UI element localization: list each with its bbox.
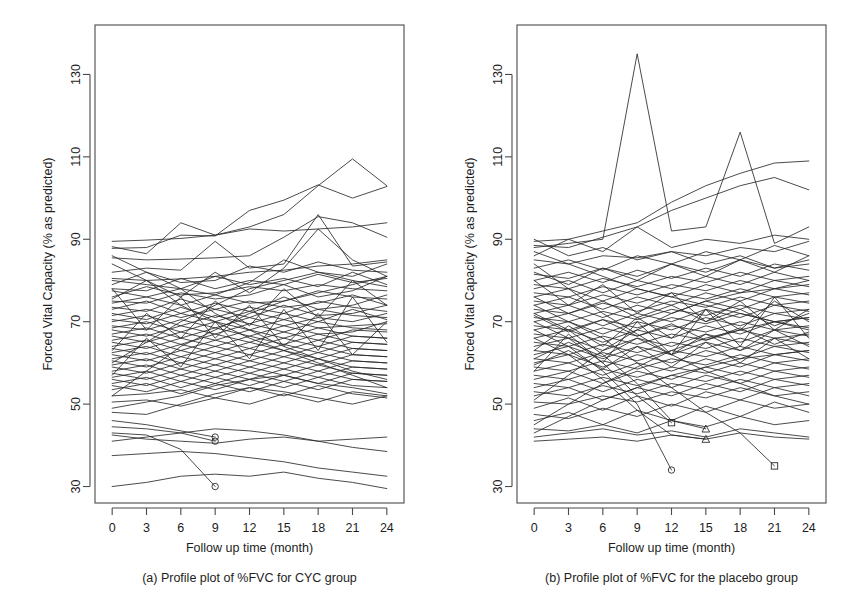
profile-line bbox=[112, 215, 387, 273]
profile-line bbox=[112, 433, 215, 487]
y-axis: 30507090110130 bbox=[69, 64, 90, 493]
y-tick-label: 50 bbox=[69, 397, 83, 411]
profile-line bbox=[112, 185, 387, 248]
x-tick-label: 3 bbox=[565, 521, 572, 535]
profile-line bbox=[534, 241, 809, 264]
y-tick-label: 110 bbox=[491, 147, 505, 167]
x-tick-label: 21 bbox=[768, 521, 782, 535]
panel-caption: (b) Profile plot of %FVC for the placebo… bbox=[545, 571, 798, 585]
panel-b: 03691215182124Follow up time (month)3050… bbox=[422, 0, 843, 612]
x-axis: 03691215182124 bbox=[531, 508, 816, 535]
profile-plot-placebo: 03691215182124Follow up time (month)3050… bbox=[422, 0, 843, 612]
y-tick-label: 110 bbox=[69, 147, 83, 167]
x-tick-label: 6 bbox=[599, 521, 606, 535]
profile-line bbox=[534, 256, 809, 285]
x-tick-label: 6 bbox=[177, 521, 184, 535]
x-tick-label: 0 bbox=[531, 521, 538, 535]
x-tick-label: 21 bbox=[346, 521, 360, 535]
profile-line bbox=[112, 260, 387, 295]
figure-container: 03691215182124Follow up time (month)3050… bbox=[0, 0, 843, 612]
profile-lines-group bbox=[112, 159, 387, 490]
x-tick-label: 15 bbox=[699, 521, 713, 535]
y-tick-label: 50 bbox=[491, 397, 505, 411]
profile-line bbox=[112, 260, 387, 281]
y-tick-label: 90 bbox=[69, 232, 83, 246]
y-tick-label: 130 bbox=[69, 64, 83, 85]
y-axis: 30507090110130 bbox=[491, 64, 512, 493]
profile-line bbox=[534, 433, 809, 441]
x-tick-label: 9 bbox=[634, 521, 641, 535]
x-tick-label: 18 bbox=[311, 521, 325, 535]
profile-line bbox=[112, 472, 387, 488]
x-tick-label: 12 bbox=[243, 521, 257, 535]
profile-line bbox=[112, 392, 387, 406]
profile-line bbox=[112, 451, 387, 476]
x-tick-label: 9 bbox=[212, 521, 219, 535]
x-tick-label: 18 bbox=[733, 521, 747, 535]
profile-lines-group bbox=[534, 54, 809, 473]
x-tick-label: 24 bbox=[380, 521, 394, 535]
y-tick-label: 90 bbox=[491, 232, 505, 246]
x-tick-label: 12 bbox=[665, 521, 679, 535]
profile-line bbox=[112, 429, 387, 452]
y-axis-title: Forced Vital Capacity (% as predicted) bbox=[463, 157, 477, 370]
x-axis: 03691215182124 bbox=[109, 508, 394, 535]
x-axis-title: Follow up time (month) bbox=[608, 541, 735, 555]
y-axis-title: Forced Vital Capacity (% as predicted) bbox=[41, 157, 55, 370]
x-tick-label: 0 bbox=[109, 521, 116, 535]
panel-a: 03691215182124Follow up time (month)3050… bbox=[0, 0, 421, 612]
panel-caption: (a) Profile plot of %FVC for CYC group bbox=[142, 571, 357, 585]
y-tick-label: 130 bbox=[491, 64, 505, 85]
x-tick-label: 15 bbox=[277, 521, 291, 535]
y-tick-label: 70 bbox=[69, 315, 83, 329]
x-tick-label: 24 bbox=[802, 521, 816, 535]
profile-line bbox=[534, 54, 809, 248]
y-tick-label: 30 bbox=[69, 480, 83, 494]
x-axis-title: Follow up time (month) bbox=[186, 541, 313, 555]
y-tick-label: 30 bbox=[491, 480, 505, 494]
profile-line bbox=[112, 223, 387, 254]
y-tick-label: 70 bbox=[491, 315, 505, 329]
profile-plot-cyc: 03691215182124Follow up time (month)3050… bbox=[0, 0, 421, 612]
x-tick-label: 3 bbox=[143, 521, 150, 535]
